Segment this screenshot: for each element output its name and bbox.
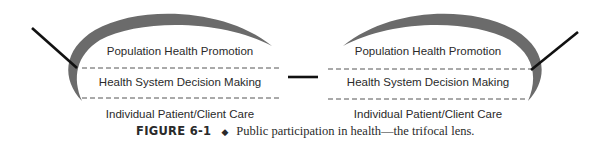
left-temple-arm (32, 28, 77, 68)
right-temple-arm (531, 32, 578, 70)
figure-label: FIGURE 6-1 (136, 124, 211, 138)
left-level-system: Health System Decision Making (99, 76, 261, 88)
caption-text: Public participation in health—the trifo… (236, 124, 474, 138)
figure-caption: FIGURE 6-1◆Public participation in healt… (136, 124, 474, 139)
diamond-separator-icon: ◆ (221, 127, 228, 137)
right-level-population: Population Health Promotion (355, 45, 501, 57)
left-level-individual: Individual Patient/Client Care (106, 108, 254, 120)
right-level-individual: Individual Patient/Client Care (354, 108, 502, 120)
trifocal-lens-diagram (0, 0, 607, 141)
left-level-population: Population Health Promotion (107, 45, 253, 57)
right-level-system: Health System Decision Making (347, 76, 509, 88)
